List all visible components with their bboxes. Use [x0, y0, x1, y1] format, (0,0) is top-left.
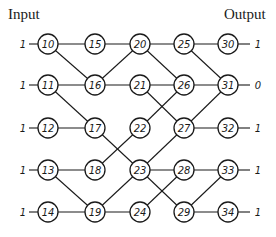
output-value: 1 — [255, 39, 261, 50]
node-label: 10 — [42, 39, 55, 50]
output-value: 0 — [255, 80, 261, 91]
node-label: 32 — [222, 123, 235, 134]
node-label: 14 — [42, 207, 55, 218]
node-label: 20 — [134, 39, 147, 50]
node-18: 18 — [85, 160, 105, 180]
node-32: 32 — [218, 118, 238, 138]
node-22: 22 — [130, 118, 150, 138]
node-25: 25 — [174, 34, 194, 54]
node-label: 26 — [178, 80, 191, 91]
node-label: 34 — [222, 207, 235, 218]
node-label: 11 — [42, 80, 55, 91]
node-30: 30 — [218, 34, 238, 54]
output-label: Output — [224, 6, 267, 22]
node-label: 21 — [134, 80, 147, 91]
node-19: 19 — [85, 202, 105, 222]
node-label: 18 — [89, 165, 102, 176]
output-value: 1 — [255, 123, 261, 134]
input-label: Input — [8, 6, 40, 22]
node-34: 34 — [218, 202, 238, 222]
node-label: 17 — [89, 123, 102, 134]
node-31: 31 — [218, 75, 238, 95]
node-label: 19 — [89, 207, 102, 218]
node-20: 20 — [130, 34, 150, 54]
node-29: 29 — [174, 202, 194, 222]
node-label: 33 — [222, 165, 235, 176]
node-10: 10 — [38, 34, 58, 54]
node-label: 31 — [222, 80, 235, 91]
node-21: 21 — [130, 75, 150, 95]
node-24: 24 — [130, 202, 150, 222]
node-33: 33 — [218, 160, 238, 180]
input-value: 1 — [20, 123, 26, 134]
node-label: 15 — [89, 39, 102, 50]
node-label: 25 — [178, 39, 191, 50]
node-label: 22 — [134, 123, 147, 134]
node-26: 26 — [174, 75, 194, 95]
node-17: 17 — [85, 118, 105, 138]
node-label: 23 — [134, 165, 147, 176]
node-label: 24 — [134, 207, 147, 218]
node-label: 12 — [42, 123, 55, 134]
network-diagram: Input Output 1111110111 1011121314151617… — [0, 0, 276, 237]
input-value: 1 — [20, 207, 26, 218]
node-label: 30 — [222, 39, 235, 50]
node-27: 27 — [174, 118, 194, 138]
node-15: 15 — [85, 34, 105, 54]
node-label: 29 — [178, 207, 191, 218]
node-label: 28 — [178, 165, 191, 176]
node-14: 14 — [38, 202, 58, 222]
node-13: 13 — [38, 160, 58, 180]
node-12: 12 — [38, 118, 58, 138]
output-value: 1 — [255, 207, 261, 218]
input-value: 1 — [20, 80, 26, 91]
output-value: 1 — [255, 165, 261, 176]
node-16: 16 — [85, 75, 105, 95]
node-label: 16 — [89, 80, 102, 91]
node-label: 27 — [178, 123, 191, 134]
node-28: 28 — [174, 160, 194, 180]
input-value: 1 — [20, 39, 26, 50]
node-label: 13 — [42, 165, 55, 176]
node-11: 11 — [38, 75, 58, 95]
node-23: 23 — [130, 160, 150, 180]
input-value: 1 — [20, 165, 26, 176]
